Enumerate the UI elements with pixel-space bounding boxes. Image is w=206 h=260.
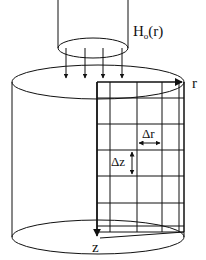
incident-arrows [66, 48, 122, 78]
z-axis-label: z [92, 239, 99, 255]
delta-z-label: Δz [111, 154, 125, 169]
cylinder-diagram: Ho(r) r z Δr Δz [0, 0, 206, 260]
source-label: Ho(r) [133, 23, 163, 41]
delta-r-label: Δr [142, 126, 155, 141]
r-axis-label: r [192, 75, 197, 91]
source-tube [58, 0, 128, 58]
